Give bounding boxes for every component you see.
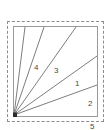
angle-label-5: 5 <box>90 123 94 130</box>
ray-2 <box>14 56 97 115</box>
vertex-marker-icon <box>13 113 17 118</box>
angle-label-1: 1 <box>75 80 79 88</box>
angle-label-4: 4 <box>34 64 38 72</box>
figure-root: 4 3 1 2 5 <box>0 0 111 130</box>
ray-3 <box>14 27 44 115</box>
angle-label-3: 3 <box>54 67 58 75</box>
ray-5 <box>14 85 97 115</box>
angle-label-2: 2 <box>88 100 92 108</box>
